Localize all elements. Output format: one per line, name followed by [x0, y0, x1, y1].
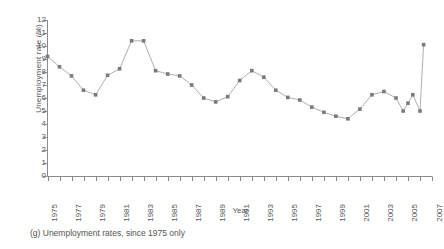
data-point-marker	[298, 98, 302, 102]
data-point-marker	[418, 109, 422, 113]
line-chart: Unemployment rate (%) 0123456789101112 1…	[0, 0, 441, 212]
data-point-marker	[82, 88, 86, 92]
data-series-markers	[46, 39, 426, 121]
data-point-marker	[370, 93, 374, 97]
data-point-marker	[154, 69, 158, 73]
data-point-marker	[178, 74, 182, 78]
data-point-marker	[310, 105, 314, 109]
data-point-marker	[70, 74, 74, 78]
data-point-marker	[322, 111, 326, 115]
data-point-marker	[202, 96, 206, 100]
axis-lines	[48, 20, 433, 177]
data-point-marker	[358, 107, 362, 111]
data-point-marker	[411, 93, 415, 97]
data-point-marker	[226, 95, 230, 99]
x-axis-title-text: Year	[232, 206, 248, 215]
data-point-marker	[401, 109, 405, 113]
data-point-marker	[190, 83, 194, 87]
data-point-marker	[334, 114, 338, 118]
data-point-marker	[286, 96, 290, 100]
data-point-marker	[46, 55, 50, 59]
data-point-marker	[238, 79, 242, 83]
data-point-marker	[394, 96, 398, 100]
data-point-marker	[106, 74, 110, 78]
data-point-marker	[142, 39, 146, 43]
data-point-marker	[58, 65, 62, 69]
data-point-marker	[118, 67, 122, 71]
data-point-marker	[250, 69, 254, 73]
data-point-marker	[214, 100, 218, 104]
figure-caption: (g) Unemployment rates, since 1975 only	[30, 228, 185, 238]
data-point-marker	[346, 117, 350, 121]
y-axis-ticks	[43, 21, 48, 177]
data-point-marker	[94, 93, 98, 97]
data-point-marker	[262, 75, 266, 79]
data-point-marker	[406, 101, 410, 105]
x-axis-title: Year	[0, 206, 441, 215]
data-series-line	[48, 41, 424, 119]
data-point-marker	[422, 43, 426, 47]
data-point-marker	[274, 88, 278, 92]
data-point-marker	[130, 39, 134, 43]
data-point-marker	[166, 72, 170, 76]
data-point-marker	[382, 90, 386, 94]
